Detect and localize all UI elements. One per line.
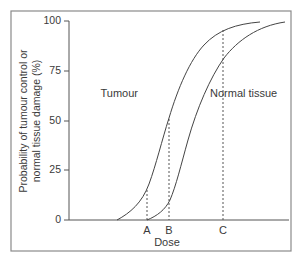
dose-mark-a: A [143, 224, 151, 236]
tick-label-75: 75 [49, 64, 61, 76]
y-ticks: 100 75 50 25 0 [43, 14, 69, 225]
dose-mark-b: B [165, 224, 172, 236]
tick-label-0: 0 [55, 213, 61, 225]
tumour-label: Tumour [101, 87, 139, 99]
y-axis-label-line1: Probability of tumour control or [17, 49, 29, 192]
y-axis-label: Probability of tumour control or normal … [17, 49, 42, 192]
normal-tissue-label: Normal tissue [210, 87, 277, 99]
dose-response-chart: Probability of tumour control or normal … [0, 0, 298, 260]
x-axis-label: Dose [154, 236, 180, 248]
tick-label-100: 100 [43, 14, 61, 26]
tumour-curve [117, 22, 260, 220]
y-axis-label-line2: normal tissue damage (%) [30, 60, 42, 183]
tick-label-50: 50 [49, 114, 61, 126]
chart-frame [11, 11, 291, 251]
tick-label-25: 25 [49, 163, 61, 175]
dose-mark-c: C [219, 224, 227, 236]
